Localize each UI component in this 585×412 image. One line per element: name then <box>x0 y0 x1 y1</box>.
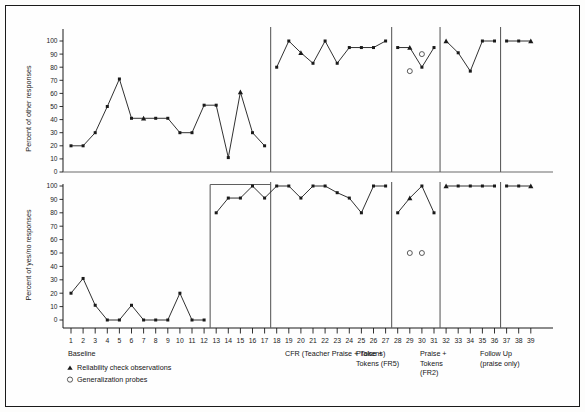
x-tick-label: 39 <box>527 337 535 344</box>
phase-label-followup: Follow Up <box>480 349 512 358</box>
bottom-data-point <box>384 185 387 188</box>
top-data-point <box>384 40 387 43</box>
x-tick-label: 10 <box>176 337 184 344</box>
x-tick-label: 21 <box>309 337 317 344</box>
bottom-data-point <box>191 319 194 322</box>
x-tick-label: 33 <box>454 337 462 344</box>
bottom-data-point <box>396 211 399 214</box>
bottom-y-tick-label: 80 <box>50 209 58 216</box>
x-tick-label: 34 <box>467 337 475 344</box>
bottom-data-point <box>481 185 484 188</box>
bottom-data-point <box>275 185 278 188</box>
bottom-y-tick-label: 10 <box>50 303 58 310</box>
bottom-data-point <box>372 185 375 188</box>
bottom-data-point <box>118 319 121 322</box>
x-tick-label: 37 <box>503 337 511 344</box>
x-tick-label: 22 <box>321 337 329 344</box>
bottom-data-point <box>348 197 351 200</box>
top-reliability-marker <box>238 89 243 94</box>
bottom-data-point <box>469 185 472 188</box>
top-data-point <box>348 46 351 49</box>
bottom-data-point <box>82 277 85 280</box>
top-data-point <box>118 77 121 80</box>
x-tick-label: 27 <box>382 337 390 344</box>
top-y-axis-title: Percent of other responses <box>24 65 33 152</box>
top-data-point <box>372 46 375 49</box>
top-generalization-probe <box>407 69 412 74</box>
top-series-line <box>446 41 494 71</box>
bottom-data-point <box>493 185 496 188</box>
top-data-point <box>275 66 278 69</box>
top-data-point <box>287 40 290 43</box>
phase-label-fr2: Praise + <box>420 349 447 358</box>
legend-circle-icon <box>67 377 72 382</box>
top-series-line <box>398 48 434 68</box>
phase-label-fr2: (FR2) <box>420 368 438 377</box>
top-data-point <box>481 40 484 43</box>
bottom-data-point <box>178 292 181 295</box>
x-tick-label: 26 <box>370 337 378 344</box>
x-tick-label: 36 <box>491 337 499 344</box>
bottom-data-point <box>457 185 460 188</box>
bottom-y-tick-label: 20 <box>50 290 58 297</box>
single-subject-design-chart: 0102030405060708090100010203040506070809… <box>0 0 585 412</box>
top-data-point <box>336 62 339 65</box>
bottom-series-line <box>71 278 204 320</box>
x-tick-label: 3 <box>93 337 97 344</box>
top-data-point <box>191 131 194 134</box>
x-tick-label: 1 <box>69 337 73 344</box>
bottom-data-point <box>517 185 520 188</box>
top-y-tick-label: 10 <box>50 155 58 162</box>
phase-label-fr5: Praise + <box>356 349 383 358</box>
x-tick-label: 35 <box>479 337 487 344</box>
top-y-tick-label: 90 <box>50 51 58 58</box>
bottom-data-point <box>360 211 363 214</box>
x-tick-label: 24 <box>346 337 354 344</box>
bottom-y-tick-label: 60 <box>50 236 58 243</box>
top-y-tick-label: 30 <box>50 129 58 136</box>
top-data-point <box>505 40 508 43</box>
top-reliability-marker <box>444 38 449 43</box>
bottom-data-point <box>215 211 218 214</box>
legend-triangle-icon <box>67 365 72 369</box>
bottom-y-tick-label: 0 <box>54 316 58 323</box>
top-data-point <box>227 156 230 159</box>
x-tick-label: 5 <box>118 337 122 344</box>
bottom-y-tick-label: 70 <box>50 223 58 230</box>
top-data-point <box>130 117 133 120</box>
x-tick-label: 6 <box>130 337 134 344</box>
top-data-point <box>106 105 109 108</box>
bottom-data-point <box>70 292 73 295</box>
top-data-point <box>457 51 460 54</box>
bottom-data-point <box>154 319 157 322</box>
bottom-data-point <box>239 197 242 200</box>
bottom-data-point <box>336 191 339 194</box>
x-tick-label: 4 <box>105 337 109 344</box>
figure-page: 0102030405060708090100010203040506070809… <box>0 0 585 412</box>
x-tick-label: 32 <box>442 337 450 344</box>
x-tick-label: 7 <box>142 337 146 344</box>
top-data-point <box>70 144 73 147</box>
bottom-data-point <box>94 304 97 307</box>
top-y-tick-label: 50 <box>50 103 58 110</box>
bottom-y-tick-label: 90 <box>50 196 58 203</box>
top-data-point <box>251 131 254 134</box>
top-y-tick-label: 100 <box>46 37 57 44</box>
x-tick-label: 28 <box>394 337 402 344</box>
x-tick-label: 38 <box>515 337 523 344</box>
top-data-point <box>360 46 363 49</box>
x-tick-label: 2 <box>81 337 85 344</box>
bottom-data-point <box>420 185 423 188</box>
x-tick-label: 23 <box>333 337 341 344</box>
top-data-point <box>178 131 181 134</box>
bottom-data-point <box>299 197 302 200</box>
bottom-y-tick-label: 40 <box>50 263 58 270</box>
bottom-data-point <box>324 185 327 188</box>
bottom-data-point <box>505 185 508 188</box>
x-tick-label: 15 <box>237 337 245 344</box>
top-y-tick-label: 60 <box>50 90 58 97</box>
bottom-data-point <box>130 304 133 307</box>
top-data-point <box>203 104 206 107</box>
top-data-point <box>166 117 169 120</box>
x-tick-label: 31 <box>430 337 438 344</box>
